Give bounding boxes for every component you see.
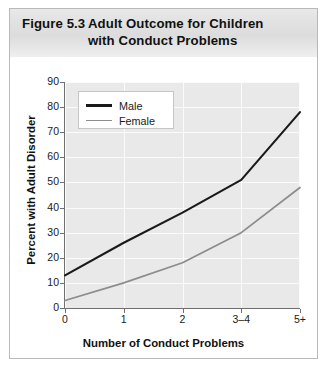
x-axis-tick-label: 3–4 — [232, 313, 250, 325]
page-title: Adult Outcome for Children with Conduct … — [88, 15, 288, 49]
y-axis-tick-label: 10 — [37, 276, 59, 288]
figure-number-label: Figure 5.3 — [22, 15, 88, 32]
x-axis-tick-labels: 0123–45+ — [65, 313, 300, 329]
legend-swatch-male — [86, 104, 112, 106]
chart-legend: Male Female — [78, 91, 174, 129]
plot-area: Male Female — [65, 82, 300, 308]
legend-item-female: Female — [86, 113, 155, 128]
series-line-male — [65, 112, 300, 275]
y-axis-tick-label: 90 — [37, 75, 59, 87]
legend-label-male: Male — [119, 100, 142, 112]
x-axis-title: Number of Conduct Problems — [10, 337, 317, 349]
series-line-female — [65, 187, 300, 300]
x-axis-tick-label: 2 — [180, 313, 186, 325]
y-axis-tick-label: 30 — [37, 226, 59, 238]
x-axis-tick-label: 5+ — [294, 313, 306, 325]
y-axis-tick-label: 50 — [37, 175, 59, 187]
x-axis-tick-label: 1 — [121, 313, 127, 325]
legend-swatch-female — [86, 120, 112, 122]
y-axis-tick-label: 80 — [37, 100, 59, 112]
y-axis-tick-label: 60 — [37, 150, 59, 162]
legend-item-male: Male — [86, 98, 142, 113]
figure-title-block: Figure 5.3Adult Outcome for Children wit… — [22, 15, 312, 49]
y-axis-tick-labels: 0102030405060708090 — [33, 82, 59, 308]
figure-container: Figure 5.3Adult Outcome for Children wit… — [0, 0, 327, 367]
y-axis-tick-label: 20 — [37, 251, 59, 263]
y-axis-tick-label: 40 — [37, 201, 59, 213]
y-axis-tick-label: 70 — [37, 125, 59, 137]
legend-label-female: Female — [119, 115, 155, 127]
y-axis-tick-label: 0 — [37, 301, 59, 313]
x-axis-tick-label: 0 — [62, 313, 68, 325]
